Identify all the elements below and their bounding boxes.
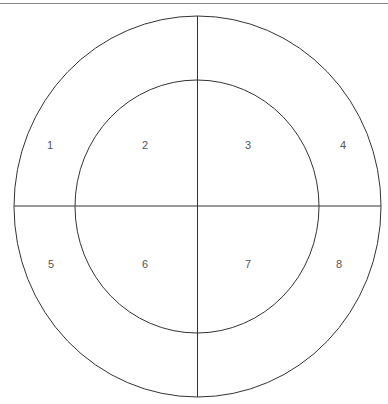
- region-label-5: 5: [48, 258, 54, 270]
- region-label-1: 1: [47, 139, 53, 151]
- region-label-8: 8: [336, 258, 342, 270]
- region-label-4: 4: [340, 139, 346, 151]
- region-label-7: 7: [245, 258, 251, 270]
- concentric-circle-diagram: [0, 0, 388, 404]
- region-label-6: 6: [142, 258, 148, 270]
- region-label-3: 3: [245, 139, 251, 151]
- region-label-2: 2: [142, 139, 148, 151]
